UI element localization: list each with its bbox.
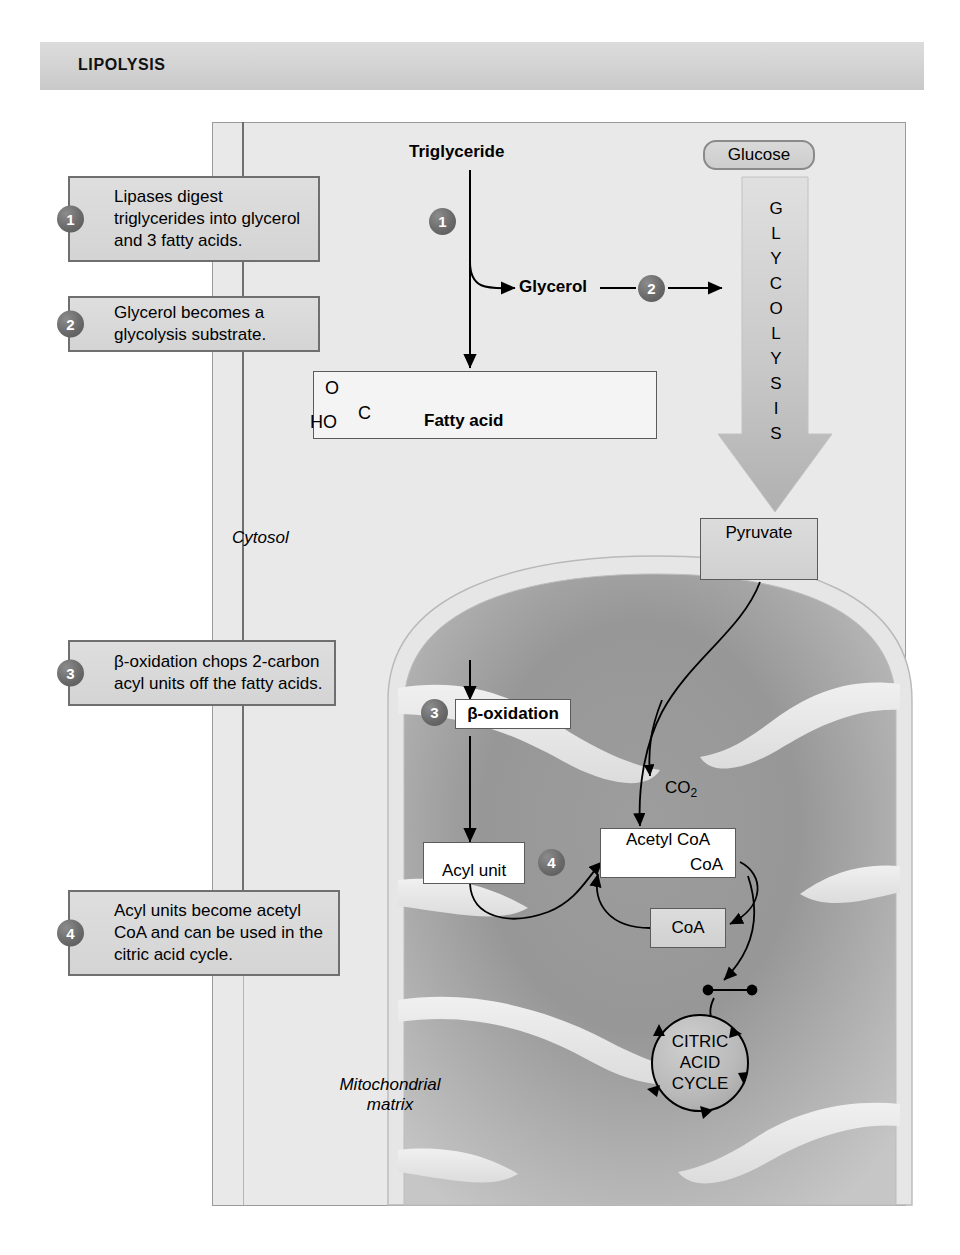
label-co2: CO2 <box>665 778 697 800</box>
step-badge-1-inline: 1 <box>429 208 456 235</box>
callout-text-4: Acyl units become acetyl CoA and can be … <box>70 900 338 966</box>
label-glycerol: Glycerol <box>519 277 587 297</box>
callout-badge-2: 2 <box>57 311 84 338</box>
callout-step-3[interactable]: 3 β-oxidation chops 2-carbon acyl units … <box>68 640 336 706</box>
callout-step-4[interactable]: 4 Acyl units become acetyl CoA and can b… <box>68 890 340 976</box>
glycolysis-letter-4: O <box>769 296 782 321</box>
callout-text-3: β-oxidation chops 2-carbon acyl units of… <box>70 651 334 695</box>
pyruvate-label: Pyruvate <box>725 523 792 543</box>
glycolysis-letter-2: Y <box>770 246 781 271</box>
node-pyruvate[interactable]: Pyruvate <box>700 518 818 580</box>
glycolysis-letter-7: S <box>770 371 781 396</box>
acetyl-coa-formula-label: CoA <box>690 855 723 875</box>
fatty-acid-title: Fatty acid <box>424 411 503 431</box>
citric-cycle-line-2: CYCLE <box>660 1073 740 1094</box>
node-coa[interactable]: CoA <box>650 908 726 948</box>
callout-text-2: Glycerol becomes a glycolysis substrate. <box>70 302 318 346</box>
label-citric-acid-cycle: CITRICACIDCYCLE <box>660 1031 740 1094</box>
step-badge-3-inline: 3 <box>421 699 448 726</box>
label-mitochondrial-matrix: Mitochondrial matrix <box>300 1075 480 1115</box>
glycolysis-letter-8: I <box>774 396 779 421</box>
callout-badge-3: 3 <box>57 660 84 687</box>
label-cytosol: Cytosol <box>232 528 289 548</box>
glycolysis-letter-6: Y <box>770 346 781 371</box>
fatty-acid-oxygen-label: O <box>325 378 339 399</box>
label-triglyceride: Triglyceride <box>409 142 504 162</box>
step-badge-4-inline: 4 <box>538 849 565 876</box>
glycolysis-letter-1: L <box>771 221 780 246</box>
citric-cycle-line-1: ACID <box>660 1052 740 1073</box>
mitochondrial-matrix-line-2: matrix <box>300 1095 480 1115</box>
co2-subscript: 2 <box>691 786 698 800</box>
acyl-unit-label: Acyl unit <box>442 861 506 881</box>
fatty-acid-carbon-label: C <box>358 403 371 424</box>
step-badge-2-inline: 2 <box>638 275 665 302</box>
glycolysis-label: GLYCOLYSIS <box>766 196 786 446</box>
fatty-acid-hydroxyl-label: HO <box>310 412 337 433</box>
callout-step-1[interactable]: 1 Lipases digest triglycerides into glyc… <box>68 176 320 262</box>
node-beta-oxidation[interactable]: β-oxidation <box>455 699 571 729</box>
citric-cycle-line-0: CITRIC <box>660 1031 740 1052</box>
mitochondrial-matrix-line-1: Mitochondrial <box>300 1075 480 1095</box>
callout-badge-4: 4 <box>57 920 84 947</box>
acetyl-coa-label: Acetyl CoA <box>626 830 710 850</box>
node-acyl-unit[interactable]: Acyl unit <box>423 842 525 884</box>
header-banner <box>40 42 924 90</box>
glycolysis-letter-3: C <box>770 271 782 296</box>
glycolysis-letter-9: S <box>770 421 781 446</box>
glycolysis-letter-5: L <box>771 321 780 346</box>
glycolysis-letter-0: G <box>769 196 782 221</box>
co2-text: CO <box>665 778 691 797</box>
callout-badge-1: 1 <box>57 206 84 233</box>
callout-text-1: Lipases digest triglycerides into glycer… <box>70 186 318 252</box>
callout-step-2[interactable]: 2 Glycerol becomes a glycolysis substrat… <box>68 296 320 352</box>
node-glucose[interactable]: Glucose <box>703 140 815 170</box>
page-title: LIPOLYSIS <box>78 56 166 74</box>
